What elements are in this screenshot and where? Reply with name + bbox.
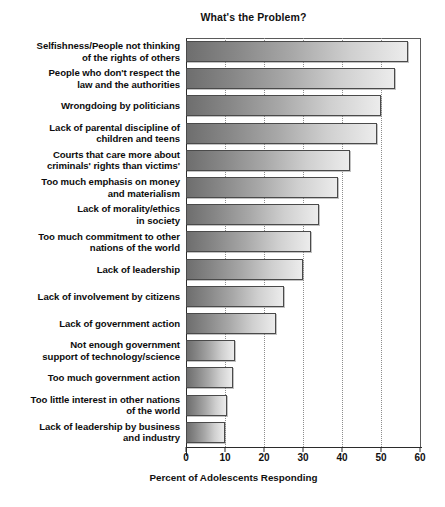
- bar-row: [186, 201, 421, 228]
- bar: [186, 259, 303, 280]
- bar: [186, 286, 284, 307]
- category-label: Courts that care more aboutcriminals' ri…: [0, 149, 180, 172]
- category-label-line: of the rights of others: [0, 52, 180, 63]
- x-tick-label-50: 50: [375, 452, 386, 463]
- x-axis-line: [186, 447, 422, 448]
- x-tick-label-40: 40: [336, 452, 347, 463]
- bar-chart: What's the Problem? Selfishness/People n…: [0, 0, 445, 507]
- bar-row: [186, 256, 421, 283]
- category-label: Lack of morality/ethicsin society: [0, 203, 180, 226]
- x-tick-label-0: 0: [183, 452, 189, 463]
- category-label-line: Too much government action: [0, 372, 180, 383]
- category-label-line: children and teens: [0, 133, 180, 144]
- category-label-line: Too little interest in other nations: [0, 394, 180, 405]
- bar-row: [186, 392, 421, 419]
- category-label: Lack of involvement by citizens: [0, 291, 180, 302]
- bar-row: [186, 65, 421, 92]
- category-label-line: and materialism: [0, 188, 180, 199]
- bar-row: [186, 38, 421, 65]
- category-label-line: Lack of parental discipline of: [0, 122, 180, 133]
- bar-row: [186, 147, 421, 174]
- bar: [186, 41, 408, 62]
- category-label: Lack of parental discipline ofchildren a…: [0, 122, 180, 145]
- category-label-line: Wrongdoing by politicians: [0, 100, 180, 111]
- x-tick-label-10: 10: [219, 452, 230, 463]
- bar: [186, 204, 319, 225]
- category-label: Too much government action: [0, 372, 180, 383]
- category-label-line: Lack of leadership: [0, 264, 180, 275]
- category-label-line: Selfishness/People not thinking: [0, 40, 180, 51]
- bar: [186, 123, 377, 144]
- category-label: Too much emphasis on moneyand materialis…: [0, 176, 180, 199]
- category-label-line: Not enough government: [0, 339, 180, 350]
- bar: [186, 340, 235, 361]
- x-tick-label-30: 30: [297, 452, 308, 463]
- category-label: Lack of leadership: [0, 264, 180, 275]
- category-label: Lack of government action: [0, 318, 180, 329]
- category-label: Too little interest in other nationsof t…: [0, 394, 180, 417]
- category-label-line: criminals' rights than victims': [0, 160, 180, 171]
- category-axis-labels: Selfishness/People not thinkingof the ri…: [0, 38, 180, 447]
- bar-row: [186, 174, 421, 201]
- bar-row: [186, 92, 421, 119]
- bar: [186, 150, 350, 171]
- category-label-line: in society: [0, 215, 180, 226]
- category-label: Not enough governmentsupport of technolo…: [0, 339, 180, 362]
- category-label: Lack of leadership by businessand indust…: [0, 421, 180, 444]
- category-label-line: and industry: [0, 432, 180, 443]
- bar-row: [186, 364, 421, 391]
- category-label: Selfishness/People not thinkingof the ri…: [0, 40, 180, 63]
- category-label-line: Lack of leadership by business: [0, 421, 180, 432]
- bar: [186, 95, 381, 116]
- category-label-line: support of technology/science: [0, 351, 180, 362]
- x-tick-label-60: 60: [414, 452, 425, 463]
- chart-title: What's the Problem?: [0, 11, 445, 23]
- bar-row: [186, 120, 421, 147]
- bar-row: [186, 228, 421, 255]
- category-label-line: law and the authorities: [0, 79, 180, 90]
- bar-row: [186, 310, 421, 337]
- bar: [186, 422, 225, 443]
- category-label-line: nations of the world: [0, 242, 180, 253]
- bar: [186, 313, 276, 334]
- category-label-line: Too much emphasis on money: [0, 176, 180, 187]
- bar-row: [186, 419, 421, 446]
- x-tick-label-20: 20: [258, 452, 269, 463]
- x-axis-title: Percent of Adolescents Responding: [0, 472, 445, 483]
- bar: [186, 177, 338, 198]
- category-label: Too much commitment to othernations of t…: [0, 231, 180, 254]
- category-label-line: Lack of morality/ethics: [0, 203, 180, 214]
- bar: [186, 68, 395, 89]
- category-label: People who don't respect thelaw and the …: [0, 67, 180, 90]
- category-label: Wrongdoing by politicians: [0, 100, 180, 111]
- bar: [186, 395, 227, 416]
- bar: [186, 231, 311, 252]
- x-axis-ticks: 0102030405060: [0, 452, 445, 468]
- category-label-line: Lack of involvement by citizens: [0, 291, 180, 302]
- category-label-line: Courts that care more about: [0, 149, 180, 160]
- category-label-line: of the world: [0, 405, 180, 416]
- bar: [186, 367, 233, 388]
- category-label-line: People who don't respect the: [0, 67, 180, 78]
- bar-row: [186, 337, 421, 364]
- plot-area: [186, 38, 421, 447]
- category-label-line: Too much commitment to other: [0, 231, 180, 242]
- bar-row: [186, 283, 421, 310]
- bar-rows: [186, 38, 421, 447]
- category-label-line: Lack of government action: [0, 318, 180, 329]
